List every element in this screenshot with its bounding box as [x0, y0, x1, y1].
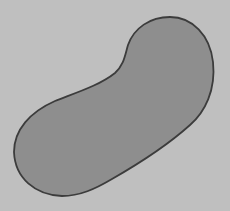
- figure-canvas: Gray kidney-bean shaped blob with dark o…: [0, 0, 230, 211]
- blob-figure: [0, 0, 230, 211]
